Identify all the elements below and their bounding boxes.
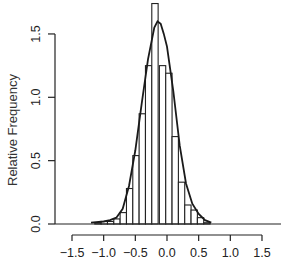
y-tick-label: 0.5 xyxy=(29,152,43,169)
y-axis-title: Relative Frequency xyxy=(5,74,20,186)
x-tick-label: 0.5 xyxy=(190,246,207,260)
x-axis: −1.5−1.0−0.50.00.51.01.5 xyxy=(60,235,271,260)
x-tick-label: 1.0 xyxy=(222,246,239,260)
x-tick-label: −0.5 xyxy=(123,246,148,260)
histogram-bar xyxy=(191,210,197,224)
y-tick-label: 1.0 xyxy=(29,89,43,106)
x-tick-label: 0.0 xyxy=(158,246,175,260)
x-tick-label: −1.0 xyxy=(91,246,116,260)
histogram-chart: 0.00.51.01.5 −1.5−1.0−0.50.00.51.01.5 Re… xyxy=(0,0,281,265)
x-tick-label: −1.5 xyxy=(60,246,85,260)
x-tick-label: 1.5 xyxy=(253,246,270,260)
y-tick-label: 0.0 xyxy=(29,215,43,232)
histogram-bar xyxy=(139,114,145,224)
histogram-bar xyxy=(133,156,139,224)
histogram-bar xyxy=(159,66,165,224)
histogram-bar xyxy=(145,66,151,224)
histogram-bar xyxy=(114,219,120,224)
histogram-bar xyxy=(166,73,172,224)
histogram-bar xyxy=(172,137,178,224)
y-axis: 0.00.51.01.5 xyxy=(29,25,55,232)
histogram-bar xyxy=(120,213,126,224)
histogram-bar xyxy=(185,205,191,224)
histogram-bar xyxy=(178,182,184,224)
y-tick-label: 1.5 xyxy=(29,25,43,42)
